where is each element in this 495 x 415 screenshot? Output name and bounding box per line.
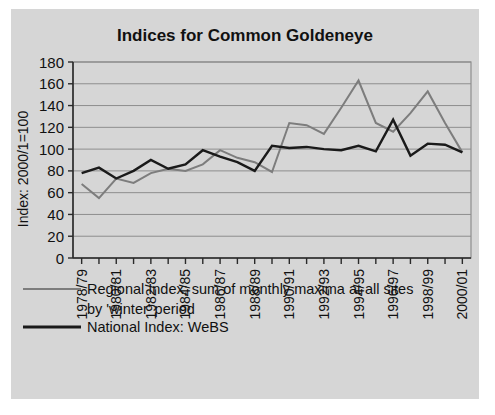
chart-title: Indices for Common Goldeneye bbox=[117, 26, 373, 45]
y-axis-title: Index: 2000/1=100 bbox=[15, 111, 31, 228]
goldeneye-line-chart: Indices for Common Goldeneye Index: 2000… bbox=[11, 9, 479, 399]
y-tick-label: 60 bbox=[47, 184, 64, 201]
y-tick-label: 120 bbox=[39, 119, 64, 136]
y-tick-label: 140 bbox=[39, 97, 64, 114]
y-tick-label: 100 bbox=[39, 141, 64, 158]
y-axis-ticks: 020406080100120140160180 bbox=[39, 54, 73, 267]
regional-index-line bbox=[82, 81, 463, 199]
gridlines bbox=[73, 62, 471, 258]
data-series bbox=[82, 81, 463, 199]
legend-label: National Index: WeBS bbox=[87, 319, 229, 335]
y-tick-label: 40 bbox=[47, 206, 64, 223]
chart-figure: Indices for Common Goldeneye Index: 2000… bbox=[11, 9, 479, 399]
legend-label: Regional Index; sum of monthly maxima at… bbox=[87, 281, 413, 297]
y-tick-label: 80 bbox=[47, 162, 64, 179]
y-tick-label: 180 bbox=[39, 54, 64, 71]
y-tick-label: 0 bbox=[56, 250, 64, 267]
plot-area-frame bbox=[73, 62, 471, 258]
y-tick-label: 160 bbox=[39, 75, 64, 92]
x-tick-label: 1998/99 bbox=[420, 269, 436, 320]
y-tick-label: 20 bbox=[47, 228, 64, 245]
legend-label: by 'winter' period bbox=[87, 301, 195, 317]
x-tick-label: 2000/01 bbox=[454, 269, 470, 320]
